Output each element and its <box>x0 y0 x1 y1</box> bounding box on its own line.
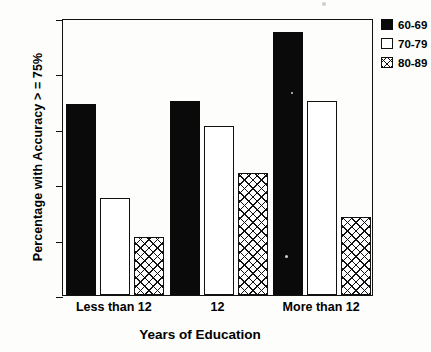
bar-70-79-more-than-12 <box>307 101 337 295</box>
y-axis-title: Percentage with Accuracy > = 75% <box>31 7 45 307</box>
bar-80-89-12 <box>238 173 268 295</box>
legend-item-80-89[interactable]: 80-89 <box>381 54 429 71</box>
y-tick <box>56 20 63 21</box>
legend-label: 80-89 <box>398 57 427 69</box>
legend-item-70-79[interactable]: 70-79 <box>381 35 429 52</box>
bar-80-89-more-than-12 <box>341 217 371 295</box>
plot-area: 020406080100 <box>62 19 373 296</box>
x-tick-label: 12 <box>211 300 225 314</box>
bar-60-69-less-than-12 <box>66 104 96 295</box>
y-tick <box>56 186 63 187</box>
legend-swatch-icon <box>381 19 393 30</box>
legend-label: 70-79 <box>398 38 427 50</box>
legend-label: 60-69 <box>398 19 427 31</box>
x-tick-label: Less than 12 <box>76 300 152 314</box>
bar-chart-figure: Percentage with Accuracy > = 75% 0204060… <box>0 0 431 352</box>
scan-artifact <box>322 2 326 6</box>
legend-swatch-icon <box>381 57 393 68</box>
y-tick <box>56 75 63 76</box>
bar-60-69-more-than-12 <box>273 32 303 295</box>
legend-swatch-icon <box>381 38 393 49</box>
bar-60-69-12 <box>170 101 200 295</box>
y-tick <box>56 242 63 243</box>
legend: 60-6970-7980-89 <box>381 16 429 73</box>
y-tick <box>56 297 63 298</box>
bar-80-89-less-than-12 <box>134 237 164 295</box>
y-tick <box>56 131 63 132</box>
x-axis-title: Years of Education <box>0 327 400 342</box>
bar-70-79-12 <box>204 126 234 295</box>
legend-item-60-69[interactable]: 60-69 <box>381 16 429 33</box>
x-tick-label: More than 12 <box>283 300 360 314</box>
bar-70-79-less-than-12 <box>100 198 130 295</box>
